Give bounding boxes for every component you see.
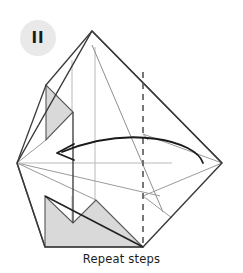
left-edge-lower <box>17 163 45 247</box>
crease-right-lower <box>143 163 222 196</box>
step-badge-label: II <box>31 31 44 46</box>
step-caption: Repeat steps <box>0 252 243 266</box>
crease-diagonal-apex-right <box>92 45 163 212</box>
diagram-page: II <box>0 0 243 273</box>
crease-diagonal-left-to-right <box>17 163 160 196</box>
arrow-head-icon <box>57 144 74 160</box>
left-shaded-flap <box>46 85 73 140</box>
step-number-badge: II <box>20 20 56 56</box>
fold-direction-arrow <box>57 137 203 163</box>
apex-right-edge <box>92 31 222 163</box>
crease-diagonal-left-up <box>17 163 96 200</box>
